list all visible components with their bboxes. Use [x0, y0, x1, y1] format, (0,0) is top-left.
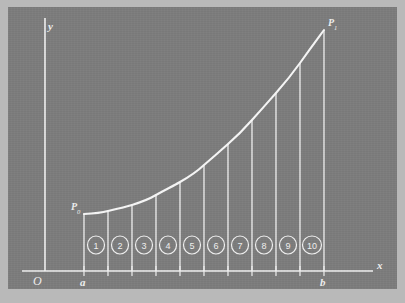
strip-marker: 1 — [88, 236, 105, 254]
point-label-p0: P 0 — [71, 201, 81, 215]
y-axis-label: y — [46, 20, 53, 32]
strip-label: 5 — [189, 241, 194, 251]
strip-label: 2 — [117, 241, 122, 251]
strip-label: 1 — [93, 241, 98, 251]
strip-marker: 10 — [303, 236, 322, 254]
strip-label: 7 — [237, 241, 242, 251]
figure-root: y x O a b — [0, 0, 405, 303]
strip-label: 3 — [141, 241, 146, 251]
strip-label: 6 — [213, 241, 218, 251]
strip-label: 8 — [261, 241, 266, 251]
plot-area: y x O a b — [8, 7, 397, 289]
strip-label: 9 — [285, 241, 290, 251]
strip-marker: 3 — [136, 236, 153, 254]
strip-marker: 7 — [232, 236, 249, 254]
lower-bound-label: a — [80, 276, 86, 288]
strip-label: 10 — [307, 241, 317, 251]
strip-divider-lines — [84, 30, 324, 271]
figure-svg: y x O a b — [8, 7, 397, 289]
strip-marker: 2 — [112, 236, 129, 254]
upper-bound-label: b — [320, 276, 326, 288]
strip-marker: 8 — [256, 236, 273, 254]
strip-marker: 9 — [280, 236, 297, 254]
x-axis-label: x — [376, 259, 383, 271]
point-p1-subscript: 1 — [334, 24, 337, 31]
point-label-p1: P 1 — [328, 17, 337, 31]
point-p0-subscript: 0 — [77, 208, 81, 215]
strip-marker: 4 — [160, 236, 177, 254]
strip-marker: 6 — [208, 236, 225, 254]
strip-marker: 5 — [184, 236, 201, 254]
origin-label: O — [33, 274, 42, 288]
strip-label: 4 — [165, 241, 170, 251]
